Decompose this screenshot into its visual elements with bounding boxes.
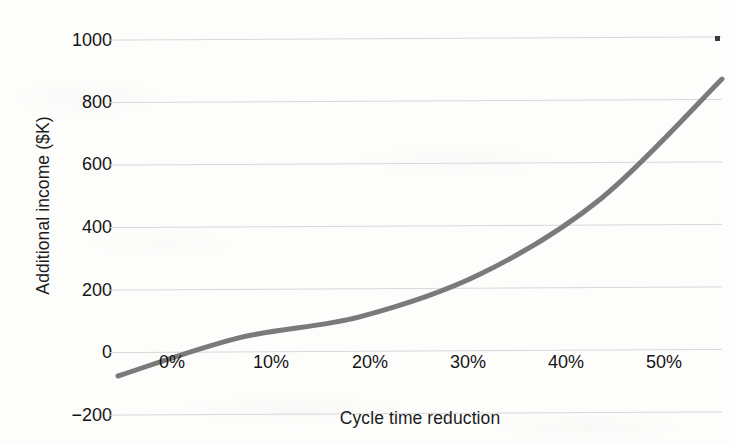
gridline	[110, 287, 722, 290]
x-tick-label: 50%	[646, 352, 682, 373]
gridline	[110, 99, 722, 102]
plot-area	[0, 0, 735, 445]
gridline	[110, 162, 722, 165]
x-tick-label: 20%	[352, 352, 388, 373]
x-axis-title: Cycle time reduction	[118, 408, 722, 429]
gridlines	[110, 37, 722, 415]
gridline	[110, 224, 722, 227]
x-tick-label: 30%	[450, 352, 486, 373]
x-tick-label: 40%	[548, 352, 584, 373]
x-tick-label: 0%	[159, 352, 185, 373]
gridline	[110, 37, 722, 40]
x-tick-label: 10%	[253, 352, 289, 373]
line-chart: Additional income ($K) 1000 800 600 400 …	[0, 0, 735, 445]
scan-artifact-speck	[715, 36, 720, 41]
